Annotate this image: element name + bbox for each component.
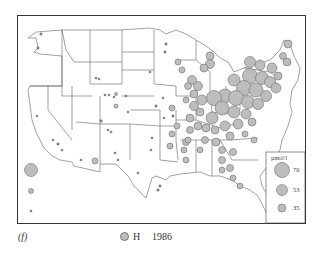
legend-unit: µmol/l xyxy=(271,155,287,161)
species-symbol-icon xyxy=(120,232,129,241)
legend-value-53: 53 xyxy=(293,186,300,193)
map-frame xyxy=(18,16,306,224)
small-station-dots xyxy=(36,33,174,191)
species-label: H xyxy=(133,231,140,242)
state-borders xyxy=(28,28,300,212)
legend-value-70: 70 xyxy=(293,166,300,173)
us-map xyxy=(0,0,319,255)
panel-label: (f) xyxy=(18,231,27,242)
legend-value-35: 35 xyxy=(293,204,300,211)
year-label: 1986 xyxy=(152,231,172,242)
inset-symbols xyxy=(25,164,38,213)
